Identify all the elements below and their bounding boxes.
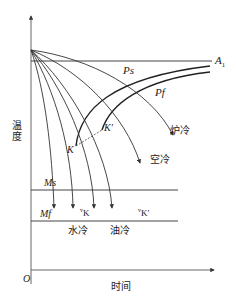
- x-axis-label: 时间: [111, 282, 131, 292]
- a1-text: A: [215, 54, 222, 66]
- diagram-canvas: [0, 0, 236, 304]
- vk-prime-label: vK′: [138, 207, 149, 218]
- k-label: K: [67, 145, 74, 155]
- oil-cool-label: 油冷: [110, 226, 130, 236]
- water-cool-label: 水冷: [68, 226, 88, 236]
- vk-prime-text: K′: [141, 208, 149, 218]
- k-prime-label: K′: [104, 123, 113, 133]
- pf-label: Pf: [155, 87, 165, 98]
- ms-label: Ms: [44, 178, 56, 188]
- ps-label: Ps: [123, 65, 134, 76]
- origin-label: O: [23, 274, 30, 284]
- air-cool-label: 空冷: [150, 155, 170, 165]
- a1-subscript: 1: [222, 61, 226, 69]
- mf-label: Mf: [40, 209, 51, 219]
- furnace-cool-label: 炉冷: [170, 126, 190, 136]
- y-axis-label: 温度: [10, 120, 20, 142]
- a1-label: A1: [215, 55, 225, 69]
- cooling-curve-furnace: [31, 50, 173, 135]
- vk-label: vK: [80, 207, 90, 218]
- vk-text: K: [83, 208, 90, 218]
